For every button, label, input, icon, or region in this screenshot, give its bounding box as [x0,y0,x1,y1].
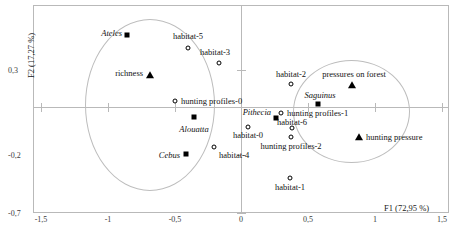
point-label-richness: richness [115,69,143,78]
pca-biplot: -1,5-1-0,500,511,5 0,3-0,2-0,7 Ateleshab… [0,0,456,249]
point-label-ateles: Ateles [101,29,122,38]
x-tick-label: -0,5 [169,215,182,224]
marker-triangle-pressures-on-forest [348,81,356,88]
y-tick-mark [237,70,246,71]
marker-circle-hunting-profiles-0 [173,99,178,104]
x-tick-label: 0,5 [303,215,313,224]
marker-circle-hunting-profiles-2 [289,135,294,140]
y-tick-label: -0,2 [8,151,21,160]
point-label-hunting-profiles-2: hunting profiles-2 [260,142,321,151]
x-axis-title: F1 (72,95 %) [384,203,429,213]
point-label-habitat-2: habitat-2 [276,70,306,79]
marker-circle-habitat-0 [246,125,251,130]
marker-square-saguinus [316,102,321,107]
y-tick-label: 0,3 [8,66,18,75]
point-label-hunting-profiles-0: hunting profiles-0 [181,97,242,106]
y-tick-mark [237,213,246,214]
marker-square-alouatta [192,115,197,120]
x-tick-label: -1 [105,215,112,224]
y-axis-title: F2 (17,27 %) [26,33,36,78]
marker-circle-habitat-5 [186,46,191,51]
x-tick-mark [442,103,443,112]
marker-square-cebus [184,152,189,157]
x-tick-mark [41,103,42,112]
point-label-habitat-1: habitat-1 [275,183,305,192]
point-label-habitat-6: habitat-6 [277,118,307,127]
marker-square-ateles [125,33,130,38]
point-label-habitat-3: habitat-3 [200,48,230,57]
marker-circle-habitat-2 [289,82,294,87]
x-tick-label: 1 [373,215,377,224]
x-tick-label: 1,5 [437,215,447,224]
point-label-saguinus: Saguinus [304,91,335,100]
point-label-hunting-pressure: hunting pressure [366,133,422,142]
marker-triangle-hunting-pressure [355,133,363,140]
point-label-pressures-on-forest: pressures on forest [322,70,386,79]
point-label-habitat-5: habitat-5 [173,32,203,41]
point-label-pithecia: Pithecia [243,108,271,117]
point-label-cebus: Cebus [159,151,180,160]
marker-circle-hunting-profiles-1 [279,111,284,116]
y-tick-label: -0,7 [8,209,21,218]
x-tick-label: -1,5 [35,215,48,224]
marker-circle-habitat-1 [288,176,293,181]
marker-circle-habitat-3 [217,61,222,66]
point-label-habitat-0: habitat-0 [233,131,263,140]
x-tick-label: 0 [239,215,243,224]
marker-circle-habitat-4 [212,145,217,150]
point-label-habitat-4: habitat-4 [219,151,249,160]
marker-triangle-richness [146,71,154,78]
point-label-alouatta: Alouatta [179,125,208,134]
